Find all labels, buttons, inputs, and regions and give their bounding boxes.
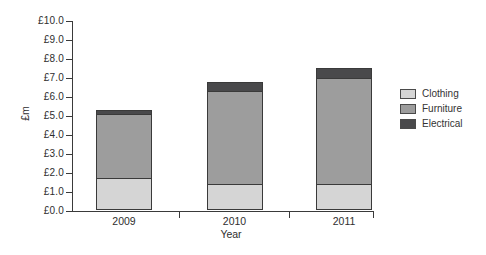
y-axis-tick xyxy=(66,21,72,22)
y-axis-tick-label: £9.0 xyxy=(24,35,64,45)
y-axis-title: £m xyxy=(20,96,31,132)
legend-swatch-furniture xyxy=(400,104,416,114)
stacked-bar-chart: £0.0£1.0£2.0£3.0£4.0£5.0£6.0£7.0£8.0£9.0… xyxy=(0,0,486,255)
legend-item-furniture: Furniture xyxy=(400,104,463,114)
x-axis-tick xyxy=(179,212,180,218)
y-axis-tick xyxy=(66,135,72,136)
legend-item-clothing: Clothing xyxy=(400,89,463,99)
x-axis-category-label: 2011 xyxy=(309,216,379,227)
y-axis-tick-label: £1.0 xyxy=(24,187,64,197)
legend-item-electrical: Electrical xyxy=(400,119,463,129)
bar-segment-2011-furniture xyxy=(316,78,372,184)
legend-label: Furniture xyxy=(422,104,462,114)
legend-label: Electrical xyxy=(422,119,463,129)
bar-segment-2009-furniture xyxy=(96,114,152,179)
y-axis-tick-label: £8.0 xyxy=(24,54,64,64)
y-axis-tick xyxy=(66,211,72,212)
y-axis-tick-label: £7.0 xyxy=(24,73,64,83)
y-axis-tick-label: £10.0 xyxy=(24,16,64,26)
y-axis-tick-label: £2.0 xyxy=(24,168,64,178)
x-axis-line xyxy=(66,211,374,212)
bar-segment-2011-electrical xyxy=(316,68,372,78)
x-axis-category-label: 2009 xyxy=(89,216,159,227)
y-axis-tick xyxy=(66,40,72,41)
y-axis-tick xyxy=(66,59,72,60)
bar-segment-2009-clothing xyxy=(96,178,152,210)
y-axis-tick xyxy=(66,78,72,79)
legend: ClothingFurnitureElectrical xyxy=(400,89,463,134)
bar-segment-2010-electrical xyxy=(207,82,263,91)
legend-swatch-electrical xyxy=(400,119,416,129)
y-axis-tick xyxy=(66,116,72,117)
bar-segment-2010-clothing xyxy=(207,184,263,211)
y-axis-line xyxy=(72,21,73,212)
x-axis-category-label: 2010 xyxy=(200,216,270,227)
legend-swatch-clothing xyxy=(400,89,416,99)
y-axis-tick xyxy=(66,192,72,193)
y-axis-tick xyxy=(66,97,72,98)
y-axis-tick-label: £0.0 xyxy=(24,206,64,216)
legend-label: Clothing xyxy=(422,89,459,99)
y-axis-tick xyxy=(66,154,72,155)
bar-segment-2009-electrical xyxy=(96,110,152,114)
bar-segment-2011-clothing xyxy=(316,184,372,211)
y-axis-tick-label: £3.0 xyxy=(24,149,64,159)
bar-segment-2010-furniture xyxy=(207,91,263,184)
x-axis-title: Year xyxy=(196,229,266,240)
y-axis-tick xyxy=(66,173,72,174)
x-axis-tick xyxy=(289,212,290,218)
